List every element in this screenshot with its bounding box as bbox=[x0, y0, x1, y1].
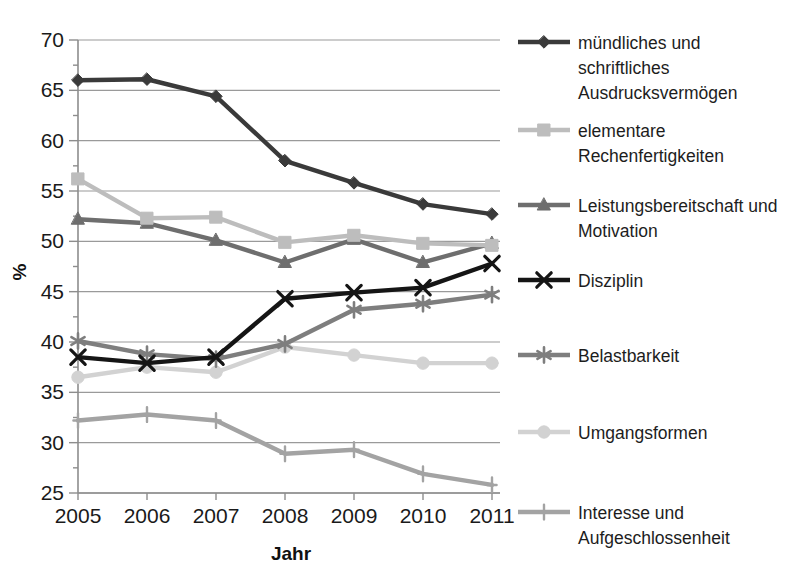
line-chart: 2530354045505560657020052006200720082009… bbox=[0, 0, 810, 583]
x-tick-label: 2010 bbox=[400, 504, 447, 527]
marker-plus bbox=[539, 505, 548, 520]
legend-label: Leistungsbereitschaft und bbox=[578, 196, 777, 216]
y-tick-label: 25 bbox=[41, 481, 64, 504]
x-axis-title: Jahr bbox=[271, 543, 312, 564]
marker-circle bbox=[72, 371, 84, 383]
series-6 bbox=[73, 407, 496, 492]
marker-diamond bbox=[72, 74, 84, 86]
marker-square bbox=[279, 236, 291, 248]
marker-diamond bbox=[538, 36, 550, 48]
marker-circle bbox=[486, 357, 498, 369]
series-line bbox=[78, 79, 492, 214]
marker-circle bbox=[348, 349, 360, 361]
marker-square bbox=[417, 237, 429, 249]
legend-item-5[interactable]: Umgangsformen bbox=[518, 423, 707, 443]
marker-plus bbox=[211, 413, 220, 428]
marker-diamond bbox=[141, 73, 153, 85]
y-tick-label: 35 bbox=[41, 380, 64, 403]
series-1 bbox=[72, 173, 498, 251]
x-tick-label: 2009 bbox=[331, 504, 378, 527]
x-tick-label: 2005 bbox=[55, 504, 102, 527]
y-tick-label: 45 bbox=[41, 280, 64, 303]
x-tick-label: 2008 bbox=[262, 504, 309, 527]
grid-group: 25303540455055606570 bbox=[41, 28, 500, 504]
legend-item-3[interactable]: Disziplin bbox=[518, 271, 643, 291]
marker-plus bbox=[280, 446, 289, 461]
legend-label: Disziplin bbox=[578, 271, 643, 291]
marker-square bbox=[141, 212, 153, 224]
marker-diamond bbox=[348, 177, 360, 189]
legend-label: elementare bbox=[578, 121, 666, 141]
x-tick-label: 2007 bbox=[193, 504, 240, 527]
marker-plus bbox=[349, 442, 358, 457]
marker-plus bbox=[142, 407, 151, 422]
series-0 bbox=[72, 73, 498, 220]
x-tick-label: 2006 bbox=[124, 504, 171, 527]
y-tick-label: 40 bbox=[41, 330, 64, 353]
legend-item-2[interactable]: Leistungsbereitschaft undMotivation bbox=[518, 196, 777, 241]
series-line bbox=[78, 179, 492, 245]
legend-label: Motivation bbox=[578, 221, 658, 241]
marker-diamond bbox=[486, 208, 498, 220]
marker-square bbox=[538, 124, 550, 136]
marker-plus bbox=[73, 413, 82, 428]
x-tick-label: 2011 bbox=[469, 504, 514, 527]
legend-label: Umgangsformen bbox=[578, 423, 707, 443]
marker-plus bbox=[418, 466, 427, 481]
x-axis-labels: 2005200620072008200920102011 bbox=[55, 493, 515, 527]
legend-item-0[interactable]: mündliches undschriftlichesAusdrucksverm… bbox=[518, 33, 738, 103]
legend-label: Interesse und bbox=[578, 503, 684, 523]
y-tick-label: 70 bbox=[41, 28, 64, 51]
legend-item-6[interactable]: Interesse undAufgeschlossenheit bbox=[518, 503, 730, 548]
y-tick-label: 55 bbox=[41, 179, 64, 202]
chart-canvas: 2530354045505560657020052006200720082009… bbox=[0, 0, 810, 583]
marker-square bbox=[486, 239, 498, 251]
legend-label: Ausdrucksvermögen bbox=[578, 83, 738, 103]
marker-circle bbox=[538, 426, 550, 438]
y-tick-label: 50 bbox=[41, 229, 64, 252]
legend-item-1[interactable]: elementareRechenfertigkeiten bbox=[518, 121, 724, 166]
legend-label: Rechenfertigkeiten bbox=[578, 146, 724, 166]
y-axis-title: % bbox=[9, 263, 30, 280]
legend: mündliches undschriftlichesAusdrucksverm… bbox=[518, 33, 777, 548]
legend-label: Aufgeschlossenheit bbox=[578, 528, 730, 548]
marker-square bbox=[348, 229, 360, 241]
y-tick-label: 30 bbox=[41, 431, 64, 454]
marker-square bbox=[72, 173, 84, 185]
y-tick-label: 65 bbox=[41, 78, 64, 101]
legend-label: Belastbarkeit bbox=[578, 346, 679, 366]
marker-square bbox=[210, 211, 222, 223]
marker-diamond bbox=[417, 198, 429, 210]
legend-item-4[interactable]: Belastbarkeit bbox=[518, 346, 679, 366]
marker-circle bbox=[417, 357, 429, 369]
marker-plus bbox=[487, 478, 496, 493]
legend-label: mündliches und bbox=[578, 33, 701, 53]
y-tick-label: 60 bbox=[41, 129, 64, 152]
legend-label: schriftliches bbox=[578, 58, 670, 78]
